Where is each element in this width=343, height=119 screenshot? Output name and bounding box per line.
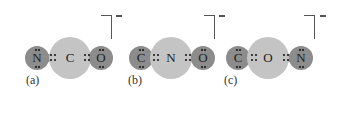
bond-electrons-right (283, 54, 290, 62)
bond-electrons-left (251, 54, 258, 62)
bracket (101, 15, 112, 39)
atom-symbol: O (198, 50, 207, 66)
structure-label: (a) (26, 73, 39, 88)
atom-symbol: N (296, 50, 305, 66)
atom-symbol: C (234, 50, 243, 66)
atom-symbol: C (66, 50, 75, 66)
lone-pair-bottom (299, 66, 305, 68)
bond-electrons-right (185, 54, 192, 62)
atom-symbol: O (263, 50, 272, 66)
bracket (204, 15, 215, 39)
structure-label: (c) (224, 73, 237, 88)
lone-pair-bottom (236, 66, 242, 68)
bond-electrons-right (84, 54, 91, 62)
charge-sign (116, 15, 122, 17)
atom-symbol: N (166, 50, 175, 66)
bond-electrons-left (153, 54, 160, 62)
lone-pair-bottom (201, 66, 207, 68)
bond-electrons-left (50, 54, 57, 62)
atom-symbol: O (96, 50, 105, 66)
lone-pair-bottom (35, 66, 41, 68)
bracket (304, 15, 315, 39)
atom-symbol: C (137, 50, 146, 66)
charge-sign (320, 15, 326, 17)
lone-pair-bottom (139, 66, 145, 68)
charge-sign (219, 15, 225, 17)
atom-symbol: N (32, 50, 41, 66)
structure-label: (b) (128, 73, 142, 88)
lone-pair-bottom (99, 66, 105, 68)
